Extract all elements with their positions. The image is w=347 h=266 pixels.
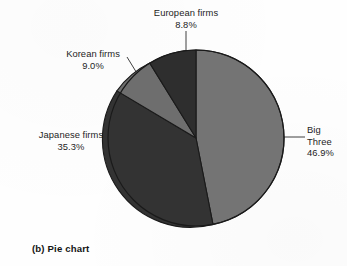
pie-label-european-firms-name: European firms	[120, 7, 252, 19]
figure-caption: (b) Pie chart	[32, 243, 89, 254]
pie-label-big-three-value: 46.9%	[307, 147, 347, 159]
pie-label-korean-firms-name: Korean firms	[32, 48, 154, 60]
pie-label-japanese-firms: Japanese firms 35.3%	[8, 129, 134, 152]
pie-label-big-three: Big Three 46.9%	[307, 124, 347, 159]
pie-label-japanese-firms-name: Japanese firms	[8, 129, 134, 141]
pie-label-korean-firms: Korean firms 9.0%	[32, 48, 154, 71]
pie-label-european-firms: European firms 8.8%	[120, 7, 252, 30]
figure-canvas: European firms 8.8% Korean firms 9.0% Ja…	[0, 0, 347, 266]
pie-slice-big-three[interactable]	[196, 50, 284, 224]
pie-label-japanese-firms-value: 35.3%	[8, 141, 134, 153]
pie-label-korean-firms-value: 9.0%	[32, 60, 154, 72]
pie-label-big-three-name-line2: Three	[307, 136, 347, 148]
pie-label-european-firms-value: 8.8%	[120, 19, 252, 31]
pie-label-big-three-name-line1: Big	[307, 124, 347, 136]
